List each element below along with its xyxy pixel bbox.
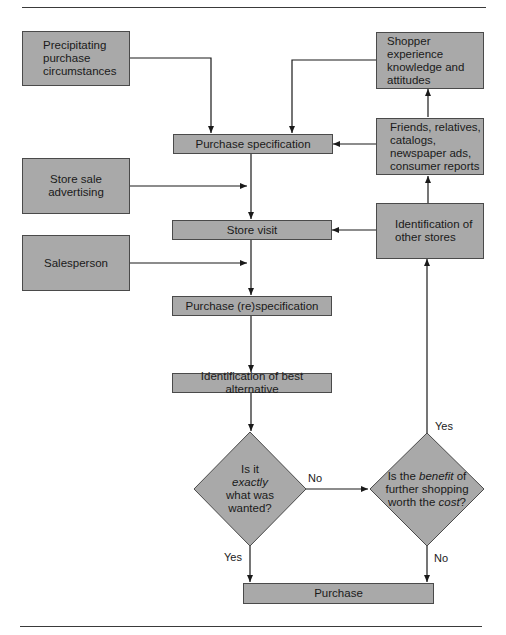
connector-arrows: [0, 0, 506, 635]
box-text-line: advertising: [48, 186, 104, 199]
box-text-line: catalogs,: [390, 134, 481, 147]
decision-line: worth the cost?: [385, 496, 468, 509]
box-label: Purchase (re)specification: [186, 300, 319, 313]
box-store-visit: Store visit: [172, 220, 332, 240]
box-store-sale-advertising: Store sale advertising: [22, 158, 130, 214]
box-purchase-specification: Purchase specification: [173, 134, 333, 154]
box-label: Purchase specification: [195, 138, 310, 151]
decision-text-exactly: Is it exactly what was wanted?: [205, 455, 295, 523]
box-label: Salesperson: [44, 257, 108, 270]
box-friends-relatives: Friends, relatives, catalogs, newspaper …: [376, 118, 484, 175]
box-text-line: Precipitating: [43, 39, 117, 52]
decision-text-benefit: Is the benefit of further shopping worth…: [372, 466, 482, 512]
edge-label-yes-down-left: Yes: [224, 551, 242, 563]
box-shopper-experience: Shopper experience knowledge and attitud…: [376, 32, 484, 89]
box-text-line: consumer reports: [390, 160, 481, 173]
box-label: Purchase: [314, 587, 363, 600]
box-text-line: Shopper experience: [387, 35, 483, 61]
box-purchase: Purchase: [243, 583, 434, 604]
edge-label-no-down-right: No: [434, 552, 448, 564]
box-precipitating-circumstances: Precipitating purchase circumstances: [22, 31, 130, 86]
decision-line: wanted?: [226, 502, 274, 515]
box-text-line: knowledge and: [387, 61, 483, 74]
box-text-line: newspaper ads,: [390, 147, 481, 160]
decision-line: Is it: [226, 463, 274, 476]
box-text-line: purchase: [43, 52, 117, 65]
box-text-line: Friends, relatives,: [390, 121, 481, 134]
edge-label-no-right: No: [308, 472, 322, 484]
decision-line: further shopping: [385, 483, 468, 496]
decision-line: Is the benefit of: [385, 470, 468, 483]
box-purchase-respecification: Purchase (re)specification: [172, 296, 332, 316]
edge-label-yes-up-right: Yes: [435, 420, 453, 432]
decision-line-italic: exactly: [226, 476, 274, 489]
box-text-line: Store sale: [48, 173, 104, 186]
box-label: Store visit: [227, 224, 278, 237]
box-text-line: other stores: [395, 231, 472, 244]
box-identification-other-stores: Identification of other stores: [376, 203, 484, 259]
box-label: Identification of best alternative: [173, 370, 331, 396]
decision-line: what was: [226, 489, 274, 502]
box-text-line: Identification of: [395, 218, 472, 231]
box-best-alternative: Identification of best alternative: [172, 373, 332, 393]
box-salesperson: Salesperson: [22, 235, 130, 291]
box-text-line: circumstances: [43, 65, 117, 78]
box-text-line: attitudes: [387, 74, 483, 87]
